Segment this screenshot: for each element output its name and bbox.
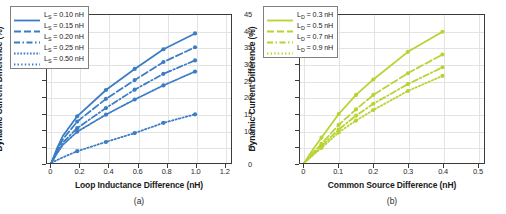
- y-tick-mark: [42, 97, 46, 98]
- series-marker: [193, 31, 197, 35]
- series-marker: [319, 146, 323, 150]
- x-tick-label: 0: [36, 167, 64, 176]
- x-tick-mark: [196, 164, 197, 168]
- series-marker: [337, 112, 341, 116]
- x-tick-mark: [138, 164, 139, 168]
- series-marker: [133, 78, 137, 82]
- series-marker: [75, 119, 79, 123]
- series-line: [304, 67, 442, 163]
- series-marker: [406, 50, 410, 54]
- series-line: [51, 60, 195, 163]
- x-tick-label: 0.8: [153, 167, 181, 176]
- legend-label: LS = 0.10 nH: [44, 10, 84, 20]
- series-marker: [193, 69, 197, 73]
- series-marker: [193, 112, 197, 116]
- y-tick-label: 5: [222, 143, 252, 152]
- legend-row: LD = 0.5 nH: [267, 21, 333, 32]
- series-marker: [75, 126, 79, 130]
- legend-label: LD = 0.3 nH: [297, 10, 333, 20]
- x-tick-mark: [50, 164, 51, 168]
- series-marker: [440, 65, 444, 69]
- x-tick-label: 0.4: [94, 167, 122, 176]
- legend-swatch: [14, 55, 40, 64]
- x-tick-mark: [167, 164, 168, 168]
- y-tick-mark: [295, 97, 299, 98]
- y-axis-label-a: Dynamic Current Difference (%): [0, 14, 8, 164]
- y-tick-label: 40: [222, 26, 252, 35]
- legend-row: LS = 0.20 nH: [14, 32, 84, 43]
- legend-row: LS = 0.25 nH: [14, 43, 84, 54]
- panel-b: Dynamic Current Difference (%) 00.10.20.…: [253, 0, 506, 214]
- figure-two-panel-line-charts: Dynamic Current Difference (%) 00.20.40.…: [0, 0, 506, 214]
- series-marker: [354, 114, 358, 118]
- x-tick-mark: [108, 164, 109, 168]
- legend-label: LS = 0.20 nH: [44, 32, 84, 42]
- series-marker: [133, 88, 137, 92]
- series-marker: [161, 60, 165, 64]
- x-tick-mark: [303, 164, 304, 168]
- legend-row: LD = 0.7 nH: [267, 32, 333, 43]
- series-marker: [161, 47, 165, 51]
- y-tick-label: 25: [222, 76, 252, 85]
- legend-b: LD = 0.3 nHLD = 0.5 nHLD = 0.7 nHLD = 0.…: [263, 6, 338, 58]
- series-marker: [161, 121, 165, 125]
- x-tick-label: 0.3: [394, 167, 422, 176]
- legend-swatch: [267, 22, 293, 31]
- legend-swatch: [14, 22, 40, 31]
- y-tick-mark: [295, 114, 299, 115]
- series-marker: [75, 130, 79, 134]
- legend-swatch: [14, 11, 40, 20]
- y-tick-mark: [295, 64, 299, 65]
- series-marker: [371, 93, 375, 97]
- y-tick-mark: [42, 147, 46, 148]
- legend-swatch: [14, 33, 40, 42]
- y-tick-mark: [42, 80, 46, 81]
- x-tick-label: 0.5: [464, 167, 492, 176]
- y-tick-mark: [42, 130, 46, 131]
- legend-label: LS = 0.50 nH: [44, 54, 84, 64]
- y-tick-mark: [295, 164, 299, 165]
- x-tick-label: 0.6: [124, 167, 152, 176]
- series-marker: [440, 74, 444, 78]
- series-marker: [75, 149, 79, 153]
- series-marker: [406, 82, 410, 86]
- series-line: [51, 72, 195, 163]
- series-marker: [133, 67, 137, 71]
- y-tick-label: 20: [222, 93, 252, 102]
- x-tick-mark: [408, 164, 409, 168]
- x-tick-label: 0.1: [324, 167, 352, 176]
- y-tick-mark: [42, 164, 46, 165]
- legend-label: LD = 0.9 nH: [297, 43, 333, 53]
- panel-caption-a: (a): [46, 196, 232, 206]
- x-axis-label-a: Loop Inductance Difference (nH): [46, 180, 232, 190]
- x-tick-label: 0: [289, 167, 317, 176]
- legend-label: LS = 0.15 nH: [44, 21, 84, 31]
- y-tick-label: 45: [222, 10, 252, 19]
- y-tick-mark: [295, 130, 299, 131]
- y-tick-label: 0: [222, 160, 252, 169]
- series-marker: [354, 93, 358, 97]
- legend-row: LD = 0.9 nH: [267, 43, 333, 54]
- x-tick-label: 0.2: [359, 167, 387, 176]
- series-marker: [406, 89, 410, 93]
- series-marker: [133, 97, 137, 101]
- series-marker: [161, 72, 165, 76]
- y-tick-mark: [295, 147, 299, 148]
- x-axis-label-b: Common Source Difference (nH): [299, 180, 485, 190]
- series-marker: [193, 45, 197, 49]
- series-marker: [354, 107, 358, 111]
- y-tick-label: 15: [222, 110, 252, 119]
- legend-label: LS = 0.25 nH: [44, 43, 84, 53]
- x-tick-label: 0.2: [65, 167, 93, 176]
- legend-swatch: [267, 33, 293, 42]
- y-tick-label: 30: [222, 60, 252, 69]
- series-marker: [337, 130, 341, 134]
- series-line: [304, 76, 442, 163]
- series-marker: [104, 88, 108, 92]
- x-tick-label: 0.4: [429, 167, 457, 176]
- series-marker: [193, 58, 197, 62]
- series-marker: [133, 131, 137, 135]
- legend-label: LD = 0.5 nH: [297, 21, 333, 31]
- series-marker: [406, 71, 410, 75]
- x-tick-label: 1.0: [182, 167, 210, 176]
